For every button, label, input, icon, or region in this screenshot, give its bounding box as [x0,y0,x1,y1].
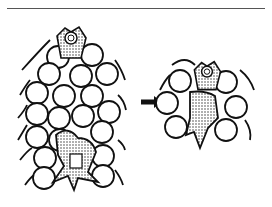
cell-circle [34,147,56,169]
cell-circle [48,107,70,129]
cell-circle [72,105,94,127]
cell-circle [33,167,55,189]
cell-circle [215,119,237,141]
cell-circle [225,96,247,118]
cell-circle [26,126,48,148]
cell-circle [70,65,92,87]
cell-circle [91,121,113,143]
cell-circle [81,85,103,107]
cell-circle [169,70,191,92]
cell-circle [38,63,60,85]
cell-circle [26,82,48,104]
cell-packing-diagram [0,0,272,207]
cell-circle [156,92,178,114]
cell-circle [53,85,75,107]
cell-circle [92,165,114,187]
cell-circle [96,63,118,85]
cell-circle [26,103,48,125]
cell-circle [165,116,187,138]
cell-circle [98,101,120,123]
